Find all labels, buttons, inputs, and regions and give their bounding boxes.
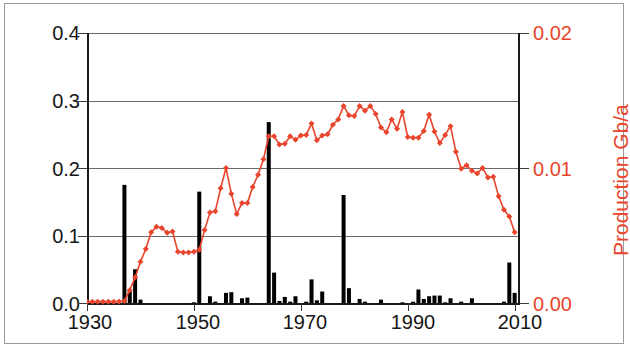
production-marker bbox=[228, 191, 234, 197]
discovery-bar bbox=[342, 195, 346, 303]
discovery-bar bbox=[267, 122, 271, 303]
production-marker bbox=[244, 200, 250, 206]
discovery-bar bbox=[513, 293, 517, 303]
discovery-bar bbox=[283, 297, 287, 303]
y-left-tickmark-0 bbox=[78, 303, 87, 304]
discovery-bar bbox=[304, 302, 308, 303]
x-tick-1950: 1950 bbox=[158, 312, 238, 332]
discovery-bar bbox=[320, 292, 324, 303]
production-marker bbox=[496, 193, 502, 199]
production-marker bbox=[351, 113, 357, 119]
y-axis-right-title: Production Gb/a bbox=[609, 104, 630, 256]
discovery-bar bbox=[347, 288, 351, 303]
y-left-tick-4: 0.4 bbox=[22, 23, 80, 43]
discovery-bar bbox=[470, 298, 474, 303]
production-marker bbox=[132, 274, 138, 280]
production-marker bbox=[207, 210, 213, 216]
production-marker bbox=[111, 299, 117, 305]
discovery-bar bbox=[438, 296, 442, 303]
discovery-bar bbox=[379, 300, 383, 303]
y-left-tickmark-2 bbox=[78, 168, 87, 169]
y-right-tick-2: 0.02 bbox=[533, 23, 572, 43]
discovery-bar bbox=[229, 292, 233, 303]
production-marker bbox=[490, 174, 496, 180]
discovery-bar bbox=[288, 302, 292, 303]
production-marker bbox=[143, 246, 149, 252]
discovery-bar bbox=[411, 302, 415, 303]
production-marker bbox=[202, 227, 208, 233]
production-marker bbox=[239, 200, 245, 206]
y-left-tick-3: 0.3 bbox=[22, 91, 80, 111]
discovery-bar bbox=[459, 302, 463, 303]
discovery-bar bbox=[443, 302, 447, 303]
production-marker bbox=[250, 184, 256, 190]
x-tick-1930: 1930 bbox=[50, 312, 130, 332]
x-tick-1970: 1970 bbox=[265, 312, 345, 332]
production-marker bbox=[170, 228, 176, 234]
production-marker bbox=[431, 129, 437, 135]
production-marker bbox=[100, 299, 106, 305]
discovery-bar bbox=[315, 300, 319, 303]
discovery-bar bbox=[358, 299, 362, 303]
production-marker bbox=[223, 165, 229, 171]
discovery-bar bbox=[422, 299, 426, 303]
production-marker bbox=[266, 133, 272, 139]
discovery-bar bbox=[213, 302, 217, 303]
y-left-tick-2: 0.2 bbox=[22, 159, 80, 179]
x-tick-2010: 2010 bbox=[480, 312, 560, 332]
chart-series-layer bbox=[87, 33, 520, 305]
discovery-bar bbox=[240, 298, 244, 303]
y-right-tickmark-1 bbox=[520, 168, 529, 169]
discovery-bar bbox=[449, 298, 453, 303]
production-marker bbox=[186, 249, 192, 255]
production-marker bbox=[410, 135, 416, 141]
production-marker bbox=[127, 287, 133, 293]
discovery-bar bbox=[363, 302, 367, 303]
discovery-bar bbox=[122, 185, 126, 303]
production-marker bbox=[116, 298, 122, 304]
discovery-bar bbox=[208, 296, 212, 303]
discovery-bar bbox=[224, 293, 228, 303]
discovery-bar bbox=[502, 302, 506, 303]
production-marker bbox=[512, 229, 518, 235]
discovery-bar bbox=[416, 290, 420, 304]
discovery-bar bbox=[192, 302, 196, 303]
discovery-bar bbox=[293, 296, 297, 303]
discovery-bars bbox=[122, 122, 516, 303]
production-marker bbox=[191, 249, 197, 255]
production-marker bbox=[405, 134, 411, 140]
production-marker bbox=[453, 149, 459, 155]
y-left-tickmark-1 bbox=[78, 236, 87, 237]
production-marker bbox=[95, 299, 101, 305]
discovery-bar bbox=[138, 300, 142, 303]
x-tick-1990: 1990 bbox=[373, 312, 453, 332]
discovery-bar bbox=[427, 296, 431, 303]
production-marker bbox=[180, 249, 186, 255]
discovery-bar bbox=[432, 296, 436, 303]
y-left-tick-1: 0.1 bbox=[22, 226, 80, 246]
discovery-bar bbox=[245, 298, 249, 303]
production-marker bbox=[255, 172, 261, 178]
y-left-tickmark-4 bbox=[78, 33, 87, 34]
production-marker bbox=[105, 299, 111, 305]
production-marker bbox=[426, 112, 432, 118]
discovery-bar bbox=[277, 301, 281, 303]
chart-figure: Discovery Gb/a Production Gb/a 0.0 0.1 0… bbox=[0, 0, 630, 350]
discovery-bar bbox=[310, 279, 314, 303]
production-marker bbox=[121, 298, 127, 304]
production-marker bbox=[175, 249, 181, 255]
y-right-tickmark-0 bbox=[520, 303, 529, 304]
discovery-bar bbox=[272, 273, 276, 303]
production-marker bbox=[218, 185, 224, 191]
production-markers bbox=[87, 103, 518, 305]
production-marker bbox=[212, 208, 218, 214]
production-marker bbox=[309, 120, 315, 126]
production-marker bbox=[303, 132, 309, 138]
production-marker bbox=[260, 156, 266, 162]
y-right-tickmark-2 bbox=[520, 33, 529, 34]
production-marker bbox=[399, 109, 405, 115]
discovery-bar bbox=[400, 302, 404, 303]
production-marker bbox=[196, 247, 202, 253]
y-right-tick-1: 0.01 bbox=[533, 159, 572, 179]
y-left-tickmark-3 bbox=[78, 101, 87, 102]
